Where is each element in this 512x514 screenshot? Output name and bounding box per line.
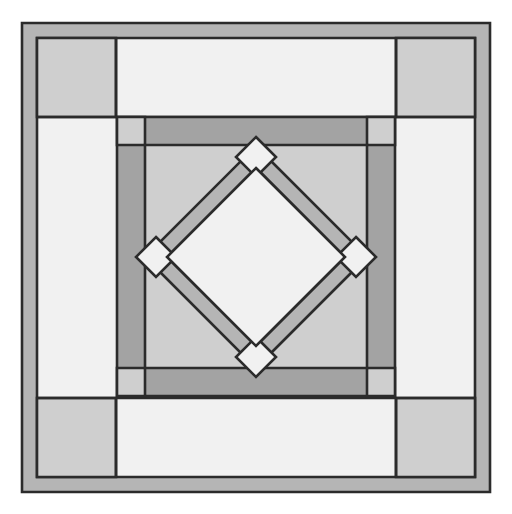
quilt-block-artwork [0, 0, 512, 514]
inner-block-corner-square-tl [117, 117, 145, 145]
inner-block-corner-square-tr [367, 117, 395, 145]
field-corner-square-br [396, 398, 475, 477]
inner-block-corner-square-br [367, 368, 395, 396]
field-corner-square-tl [37, 38, 116, 117]
field-corner-square-tr [396, 38, 475, 117]
field-corner-square-bl [37, 398, 116, 477]
inner-block-corner-square-bl [117, 368, 145, 396]
quilt-block-canvas [0, 0, 512, 514]
